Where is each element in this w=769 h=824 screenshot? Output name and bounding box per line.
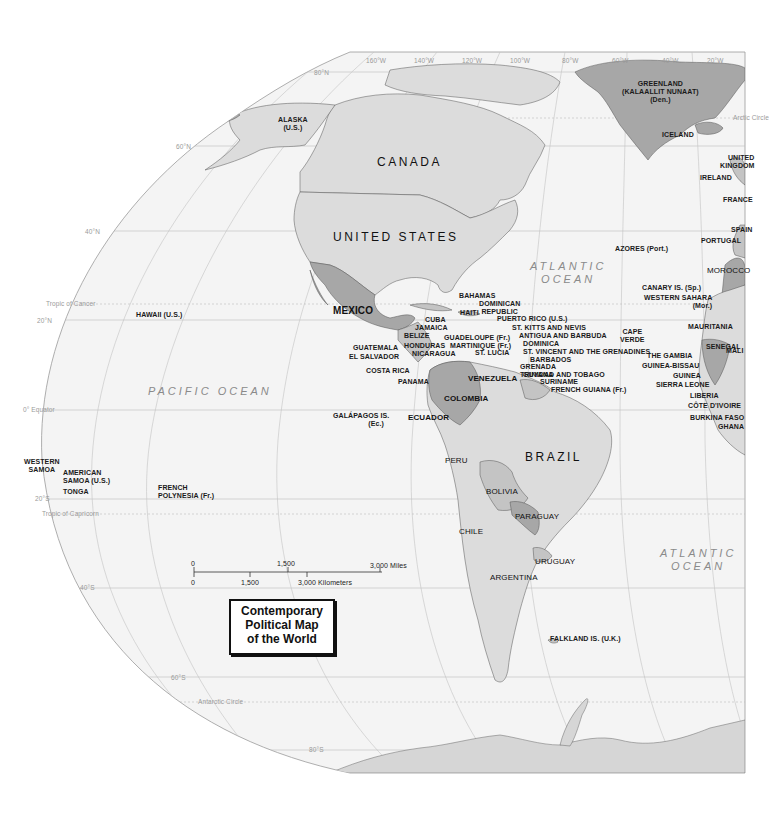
canada-label: CANADA xyxy=(377,156,442,169)
lon-label-160w: 160°W xyxy=(366,57,386,64)
label-line: VERDE xyxy=(620,336,645,344)
ocean-line-1: ATLANTIC xyxy=(530,260,606,273)
tropic-of-capricorn-label: Tropic of Capricorn xyxy=(42,510,99,517)
label-line: (Mor.) xyxy=(644,302,712,310)
morocco-label: MOROCCO xyxy=(707,266,750,275)
el-salvador-label: EL SALVADOR xyxy=(349,353,399,361)
cuba-label: CUBA xyxy=(425,316,446,324)
st-lucia-label: ST. LUCIA xyxy=(475,349,509,357)
label-line: CAPE xyxy=(620,328,645,336)
brazil-label: BRAZIL xyxy=(525,451,582,464)
scale-km-3000: 3,000 Kilometers xyxy=(298,579,352,587)
galapagos-label: GALÁPAGOS IS. (Ec.) xyxy=(333,412,389,428)
label-line: AMERICAN xyxy=(63,469,110,477)
st-kitts-label: ST. KITTS AND NEVIS xyxy=(512,324,586,332)
scale-miles-3000: 3,000 Miles xyxy=(370,562,407,570)
mali-label: MALI xyxy=(726,347,744,355)
label-line: POLYNESIA (Fr.) xyxy=(158,492,214,500)
portugal-label: PORTUGAL xyxy=(701,237,741,245)
cote-divoire-label: CÔTE D'IVOIRE xyxy=(688,402,741,410)
ocean-line-2: OCEAN xyxy=(660,560,736,573)
colombia-label: COLOMBIA xyxy=(444,394,488,403)
costa-rica-label: COSTA RICA xyxy=(366,367,410,375)
map-title-box: Contemporary Political Map of the World xyxy=(229,599,335,655)
guadeloupe-label: GUADELOUPE (Fr.) xyxy=(444,334,510,342)
cape-verde-label: CAPE VERDE xyxy=(620,328,645,344)
chile-label: CHILE xyxy=(459,527,483,536)
ocean-line-1: ATLANTIC xyxy=(660,547,736,560)
label-line: GALÁPAGOS IS. xyxy=(333,412,389,420)
guinea-label: GUINEA xyxy=(673,372,701,380)
tonga-label: TONGA xyxy=(63,488,89,496)
label-line: (Den.) xyxy=(622,96,699,104)
canary-islands-label: CANARY IS. (Sp.) xyxy=(642,284,701,292)
scale-km-0: 0 xyxy=(191,579,195,587)
haiti-label: HAITI xyxy=(460,309,479,317)
dominican-republic-label: DOMINICAN REPUBLIC xyxy=(479,300,520,316)
lon-label-100w: 100°W xyxy=(510,57,530,64)
lat-label-equator: 0° Equator xyxy=(23,406,55,413)
lat-label-20s: 20°S xyxy=(35,495,50,502)
french-guiana-label: FRENCH GUIANA (Fr.) xyxy=(551,386,627,394)
spain-label: SPAIN xyxy=(731,226,752,234)
american-samoa-label: AMERICAN SAMOA (U.S.) xyxy=(63,469,110,485)
lat-label-80n: 80°N xyxy=(314,69,329,76)
antarctic-circle-label: Antarctic Circle xyxy=(198,698,243,705)
scale-miles-1500: 1,500 xyxy=(277,560,295,568)
label-line: WESTERN xyxy=(24,458,60,466)
suriname-label: SURINAME xyxy=(540,378,578,386)
western-sahara-label: WESTERN SAHARA (Mor.) xyxy=(644,294,712,310)
belize-label: BELIZE xyxy=(404,332,430,340)
burkina-faso-label: BURKINA FASO xyxy=(690,414,744,422)
title-line-2: Political Map xyxy=(231,618,333,632)
st-vincent-label: ST. VINCENT AND THE GRENADINES xyxy=(523,348,650,356)
united-states-label: UNITED STATES xyxy=(333,231,458,244)
puerto-rico-label: PUERTO RICO (U.S.) xyxy=(497,315,568,323)
label-line: UNITED xyxy=(720,154,755,162)
scale-miles-0: 0 xyxy=(191,560,195,568)
label-line: SAMOA xyxy=(24,466,60,474)
french-polynesia-label: FRENCH POLYNESIA (Fr.) xyxy=(158,484,214,500)
scale-km-1500: 1,500 xyxy=(241,579,259,587)
guatemala-label: GUATEMALA xyxy=(353,344,398,352)
tropic-of-cancer-label: Tropic of Cancer xyxy=(46,300,95,307)
alaska-label: ALASKA (U.S.) xyxy=(278,116,308,132)
arctic-circle-label: Arctic Circle xyxy=(733,114,769,121)
label-line: ALASKA xyxy=(278,116,308,124)
france-label: FRANCE xyxy=(723,196,753,204)
lon-label-120w: 120°W xyxy=(462,57,482,64)
pacific-ocean-label: PACIFIC OCEAN xyxy=(148,385,272,398)
lat-label-80s: 80°S xyxy=(309,746,324,753)
greenland-label: GREENLAND (KALAALLIT NUNAAT) (Den.) xyxy=(622,80,699,104)
argentina-label: ARGENTINA xyxy=(490,573,538,582)
ghana-label: GHANA xyxy=(718,423,744,431)
ecuador-label: ECUADOR xyxy=(408,413,449,422)
panama-label: PANAMA xyxy=(398,378,429,386)
bolivia-label: BOLIVIA xyxy=(486,487,518,496)
atlantic-ocean-south-label: ATLANTIC OCEAN xyxy=(660,547,736,573)
the-gambia-label: THE GAMBIA xyxy=(647,352,692,360)
ireland-label: IRELAND xyxy=(700,174,732,182)
label-line: (U.S.) xyxy=(278,124,308,132)
lat-label-40s: 40°S xyxy=(80,584,95,591)
mexico-label: MEXICO xyxy=(333,305,373,316)
label-line: (Ec.) xyxy=(333,420,389,428)
lat-label-60s: 60°S xyxy=(171,674,186,681)
title-line-1: Contemporary xyxy=(231,604,333,618)
nicaragua-label: NICARAGUA xyxy=(412,350,456,358)
label-line: WESTERN SAHARA xyxy=(644,294,712,302)
uruguay-label: URUGUAY xyxy=(535,557,575,566)
antigua-label: ANTIGUA AND BARBUDA xyxy=(519,332,607,340)
grenada-label: GRENADA xyxy=(520,363,556,371)
venezuela-label: VENEZUELA xyxy=(468,374,517,383)
label-line: (KALAALLIT NUNAAT) xyxy=(622,88,699,96)
dominica-label: DOMINICA xyxy=(523,340,559,348)
liberia-label: LIBERIA xyxy=(690,392,719,400)
falkland-islands-label: FALKLAND IS. (U.K.) xyxy=(550,635,621,643)
bahamas-label: BAHAMAS xyxy=(459,292,495,300)
paraguay-label: PARAGUAY xyxy=(515,512,559,521)
iceland-label: ICELAND xyxy=(662,131,694,139)
lon-label-20w: 20°W xyxy=(707,57,723,64)
label-line: KINGDOM xyxy=(720,162,755,170)
united-kingdom-label: UNITED KINGDOM xyxy=(720,154,755,170)
